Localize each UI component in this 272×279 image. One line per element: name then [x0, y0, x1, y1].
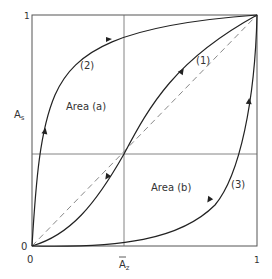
y-tick-0: 0 [21, 241, 27, 252]
area-b-label: Area (b) [151, 182, 191, 193]
curve-2-label: (2) [80, 60, 94, 71]
x-axis-label: Az [119, 259, 130, 272]
x-tick-1: 1 [254, 255, 260, 265]
curve-1-arrow-up-icon [178, 67, 186, 75]
curve-3-label: (3) [231, 179, 245, 190]
y-axis-label: As [14, 109, 25, 122]
curve-3-arrow-down-icon [205, 196, 213, 204]
curve-3-arrow-up-icon [246, 98, 253, 105]
y-tick-1: 1 [24, 11, 30, 21]
diagonal-reference-line [32, 15, 257, 246]
area-a-label: Area (a) [66, 101, 106, 112]
hysteresis-diagram: (2) (1) (3) Area (a) Area (b) 1 0 0 1 As… [0, 0, 272, 279]
curve-1-label: (1) [196, 55, 210, 66]
x-tick-0: 0 [27, 254, 33, 265]
curve-2-arrow-right-icon [106, 37, 112, 42]
